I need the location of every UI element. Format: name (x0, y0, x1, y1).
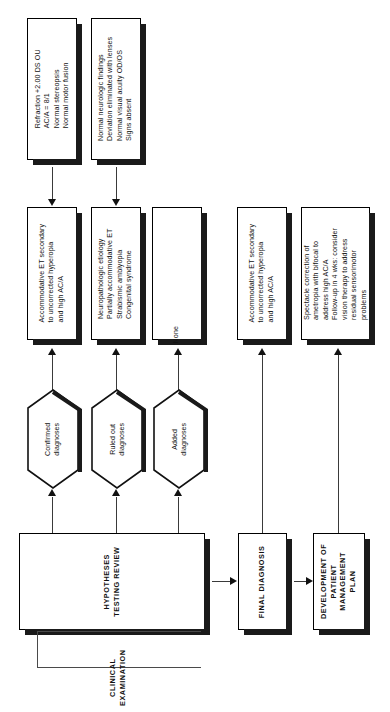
box-shadow (286, 539, 292, 630)
box-shadow (201, 213, 207, 340)
connector-finding-to-ruledout (116, 167, 117, 200)
clinical-examination-label: CLINICALEXAMINATION (93, 652, 141, 704)
outcome-final-diagnosis-text: Accommodative ET secondaryto uncorrected… (238, 208, 286, 339)
arrowhead-up (48, 489, 56, 496)
hexagon-ruled-out-diagnoses: Ruled outdiagnoses (89, 388, 149, 490)
box-shadow (33, 339, 82, 345)
connector-review-to-confirmed-hex (52, 497, 53, 533)
arrowhead-right (230, 577, 237, 585)
box-shadow (319, 629, 370, 635)
connector-final-diagnosis-up (262, 355, 263, 533)
outcome-box-confirmed: Accommodative ET secondaryto uncorrected… (27, 207, 77, 340)
arrowhead-up (174, 348, 182, 355)
outcome-box-added: None (152, 207, 202, 340)
final-diagnosis-label: FINAL DIAGNOSIS (239, 534, 286, 629)
flowchart-canvas: Refraction +2.00 DS OUAC/A = 8/1Normal s… (0, 0, 390, 712)
hexagon-confirmed-diagnoses: Confirmeddiagnoses (25, 388, 85, 490)
finding-box-neuro: Normal neurologic findingsDeviation elim… (91, 18, 141, 160)
process-box-final-diagnosis: FINAL DIAGNOSIS (238, 533, 287, 630)
finding-refraction-text: Refraction +2.00 DS OUAC/A = 8/1Normal s… (28, 19, 76, 159)
arrowhead-right (306, 577, 313, 585)
box-shadow (97, 339, 146, 345)
outcome-box-final-diagnosis: Accommodative ET secondaryto uncorrected… (237, 207, 287, 340)
outcome-management-plan-text: Spectacle correction ofametropia with bi… (302, 208, 369, 339)
outcome-added-text: None (153, 208, 201, 345)
box-shadow (140, 213, 146, 340)
box-shadow (33, 159, 82, 165)
connector-ruledout-hex-to-box (116, 355, 117, 390)
box-shadow (204, 539, 210, 630)
hexagon-added-label: Addeddiagnoses (151, 388, 207, 490)
arrowhead-down (48, 199, 56, 206)
box-shadow (76, 213, 82, 340)
connector-finding-to-confirmed (52, 167, 53, 200)
outcome-confirmed-text: Accommodative ET secondaryto uncorrected… (28, 208, 76, 339)
connector-review-to-added-hex (178, 497, 179, 533)
connector-review-to-final-diagnosis (212, 581, 231, 582)
box-shadow (307, 339, 375, 345)
outcome-box-ruled-out: Neuropathologic etiologyPartially accomm… (91, 207, 141, 340)
box-shadow (97, 159, 146, 165)
management-plan-label: DEVELOPMENT OFPATIENTMANAGEMENTPLAN (314, 534, 364, 629)
box-shadow (244, 629, 292, 635)
arrowhead-up (48, 348, 56, 355)
arrowhead-up (334, 348, 342, 355)
finding-neuro-text: Normal neurologic findingsDeviation elim… (92, 19, 140, 159)
hexagon-added-diagnoses: Addeddiagnoses (151, 388, 211, 490)
connector-management-plan-up (338, 355, 339, 533)
connector-confirmed-hex-to-box (52, 355, 53, 390)
arrowhead-up (258, 348, 266, 355)
finding-box-refraction: Refraction +2.00 DS OUAC/A = 8/1Normal s… (27, 18, 77, 160)
box-shadow (369, 213, 375, 340)
box-shadow (140, 24, 146, 160)
hypotheses-testing-review-label: HYPOTHESESTESTING REVIEW (20, 534, 204, 629)
outcome-ruled-out-text: Neuropathologic etiologyPartially accomm… (92, 208, 140, 339)
arrowhead-up (112, 348, 120, 355)
connector-added-hex-to-box (178, 355, 179, 390)
connector-review-to-ruledout-hex (116, 497, 117, 533)
arrowhead-up (112, 489, 120, 496)
box-shadow (364, 539, 370, 630)
process-box-hypotheses-testing-review: HYPOTHESESTESTING REVIEW (19, 533, 205, 630)
box-shadow (286, 213, 292, 340)
hexagon-ruled-out-label: Ruled outdiagnoses (89, 388, 145, 490)
arrowhead-up (174, 489, 182, 496)
box-shadow (243, 339, 292, 345)
hexagon-confirmed-label: Confirmeddiagnoses (25, 388, 81, 490)
box-shadow (76, 24, 82, 160)
arrowhead-down (112, 199, 120, 206)
outcome-box-management-plan: Spectacle correction ofametropia with bi… (301, 207, 370, 340)
process-box-management-plan: DEVELOPMENT OFPATIENTMANAGEMENTPLAN (313, 533, 365, 630)
